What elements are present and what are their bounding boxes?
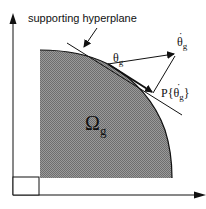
x-axis-arrow-icon: [194, 192, 206, 199]
projection-label: P{θg}: [161, 86, 189, 102]
feasible-region: [40, 50, 172, 178]
origin-box: [13, 177, 39, 195]
projection-diagram: supporting hyperplane θg θg · P{θg} · Ωg: [0, 0, 206, 209]
annotation-pointer: [84, 28, 97, 47]
projection-dot-mark: ·: [177, 79, 180, 90]
y-axis-arrow-icon: [10, 13, 17, 24]
theta-g-label: θg: [113, 51, 124, 67]
theta-g-dot-mark: ·: [179, 28, 182, 39]
diagram-svg: supporting hyperplane θg θg · P{θg} · Ωg: [0, 0, 206, 209]
hyperplane-label: supporting hyperplane: [28, 12, 137, 24]
